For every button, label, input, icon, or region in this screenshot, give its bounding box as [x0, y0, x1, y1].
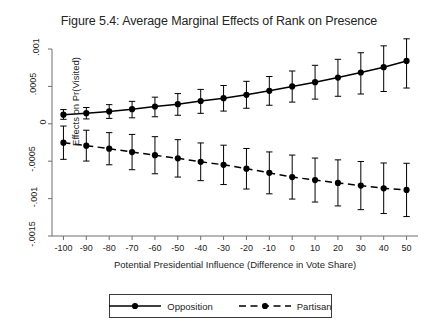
series-opposition — [60, 39, 410, 119]
legend-item-opposition[interactable]: Opposition — [109, 300, 212, 312]
chart-svg — [52, 49, 418, 236]
plot-area: .001.00050-.0005-.001-.0015 -100-90-80-7… — [52, 49, 418, 236]
x-tick-label: -80 — [103, 243, 116, 253]
x-tick-label: -90 — [80, 243, 93, 253]
legend: OppositionPartisan — [109, 294, 332, 318]
legend-label: Partisan — [297, 301, 332, 312]
y-tick-label: -.0015 — [19, 229, 45, 239]
figure-container: Figure 5.4: Average Marginal Effects of … — [0, 0, 438, 325]
axes — [48, 49, 418, 240]
x-tick-label: -20 — [240, 243, 253, 253]
x-tick-label: 40 — [379, 243, 389, 253]
y-tick-label: 0 — [40, 117, 45, 127]
x-tick-label: -100 — [54, 243, 72, 253]
y-tick-label: .0005 — [22, 79, 45, 89]
legend-label: Opposition — [167, 301, 212, 312]
x-tick-label: -30 — [217, 243, 230, 253]
y-axis-title: Effects on Pr(Visited) — [70, 37, 81, 167]
x-tick-label: 0 — [290, 243, 295, 253]
series-partisan — [60, 126, 410, 217]
legend-item-partisan[interactable]: Partisan — [239, 300, 332, 312]
data-series — [60, 39, 410, 217]
legend-swatch-partisan — [239, 300, 291, 312]
x-tick-label: 30 — [356, 243, 366, 253]
x-tick-label: 10 — [310, 243, 320, 253]
x-tick-label: -40 — [194, 243, 207, 253]
x-tick-label: -50 — [171, 243, 184, 253]
y-tick-label: .001 — [27, 42, 45, 52]
x-tick-label: 50 — [402, 243, 412, 253]
x-tick-label: -60 — [148, 243, 161, 253]
x-tick-label: -10 — [263, 243, 276, 253]
y-tick-label: -.001 — [24, 192, 45, 202]
x-axis-title: Potential Presidential Influence (Differ… — [52, 259, 418, 270]
legend-swatch-opposition — [109, 300, 161, 312]
y-tick-label: -.0005 — [19, 154, 45, 164]
x-tick-label: -70 — [126, 243, 139, 253]
x-tick-label: 20 — [333, 243, 343, 253]
figure-title: Figure 5.4: Average Marginal Effects of … — [0, 14, 438, 28]
